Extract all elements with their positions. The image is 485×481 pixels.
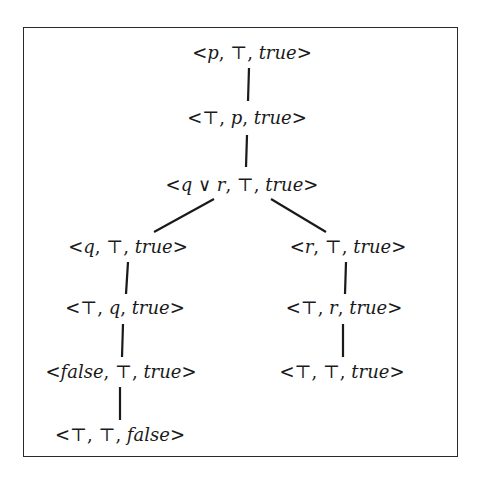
edge-n3-n5	[271, 199, 326, 232]
edge-n6-n8	[122, 324, 123, 357]
edge-n3-n4	[154, 199, 214, 232]
tree-node-n5: <r, ⊤, true>	[290, 236, 407, 257]
edge-n4-n6	[126, 262, 128, 294]
tree-node-n4: <q, ⊤, true>	[68, 236, 188, 257]
tree-node-n10: <⊤, ⊤, false>	[55, 424, 185, 445]
tree-node-n1: <p, ⊤, true>	[192, 42, 312, 63]
edge-n1-n2	[248, 68, 249, 101]
tree-node-n3: <q ∨ r, ⊤, true>	[166, 174, 319, 195]
tree-node-n2: <⊤, p, true>	[187, 107, 307, 128]
tree-node-n7: <⊤, r, true>	[286, 297, 403, 318]
tree-node-n8: <false, ⊤, true>	[45, 361, 196, 382]
edge-n2-n3	[246, 135, 247, 167]
tree-node-n6: <⊤, q, true>	[65, 297, 185, 318]
edge-n5-n7	[345, 262, 346, 294]
tree-node-n9: <⊤, ⊤, true>	[279, 361, 404, 382]
